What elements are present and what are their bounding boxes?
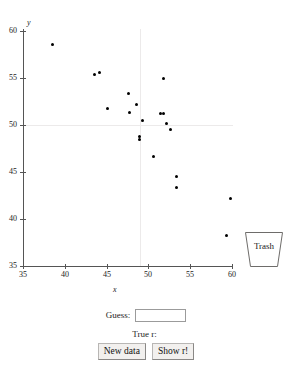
x-tick-label-50: 50 [138,271,158,279]
y-tick-label-35: 35 [1,262,17,270]
y-tick-45 [20,172,26,173]
guess-label: Guess: [106,311,131,320]
scatter-point[interactable] [127,92,130,95]
guess-input[interactable] [135,309,186,322]
y-tick-50 [20,125,26,126]
x-axis-title: x [113,286,117,294]
x-axis-line [23,266,233,267]
scatter-point[interactable] [152,155,155,158]
y-tick-label-60: 60 [1,27,17,35]
x-tick-label-40: 40 [55,271,75,279]
y-tick-label-45: 45 [1,168,17,176]
scatter-point[interactable] [141,119,144,122]
x-tick-45 [107,264,108,269]
scatter-point[interactable] [162,77,165,80]
scatter-point[interactable] [225,234,228,237]
scatter-point[interactable] [98,71,101,74]
scatter-point[interactable] [162,112,165,115]
scatter-point[interactable] [229,197,232,200]
y-axis-line [23,29,24,267]
gridline-vertical-50 [140,29,141,266]
trash-label: Trash [243,242,285,251]
y-tick-label-40: 40 [1,215,17,223]
trash-bin[interactable]: Trash [243,231,285,268]
y-tick-label-50: 50 [1,121,17,129]
scatter-point[interactable] [138,138,141,141]
true-r-row: True r: [0,325,292,343]
new-data-button[interactable]: New data [98,343,146,360]
controls-panel: Guess: True r: New data Show r! [0,306,292,360]
gridline-horizontal-50 [23,125,233,126]
scatter-point[interactable] [106,107,109,110]
scatter-point[interactable] [175,175,178,178]
x-tick-50 [148,264,149,269]
true-r-label: True r: [132,330,156,339]
x-tick-35 [23,264,24,269]
x-tick-label-45: 45 [97,271,117,279]
x-tick-label-60: 60 [222,271,242,279]
guess-row: Guess: [0,306,292,325]
scatter-point[interactable] [128,111,131,114]
show-r-button[interactable]: Show r! [152,343,194,360]
x-tick-55 [190,264,191,269]
scatter-point[interactable] [175,186,178,189]
x-tick-60 [232,264,233,269]
y-tick-55 [20,78,26,79]
scatter-point[interactable] [135,103,138,106]
y-tick-label-55: 55 [1,74,17,82]
y-tick-40 [20,219,26,220]
button-row: New data Show r! [0,343,292,360]
y-tick-60 [20,31,26,32]
scatter-point[interactable] [51,43,54,46]
x-tick-label-35: 35 [13,271,33,279]
x-tick-40 [65,264,66,269]
x-tick-label-55: 55 [180,271,200,279]
scatter-point[interactable] [93,73,96,76]
y-axis-title: y [27,19,31,27]
scatter-point[interactable] [169,128,172,131]
scatter-point[interactable] [165,122,168,125]
